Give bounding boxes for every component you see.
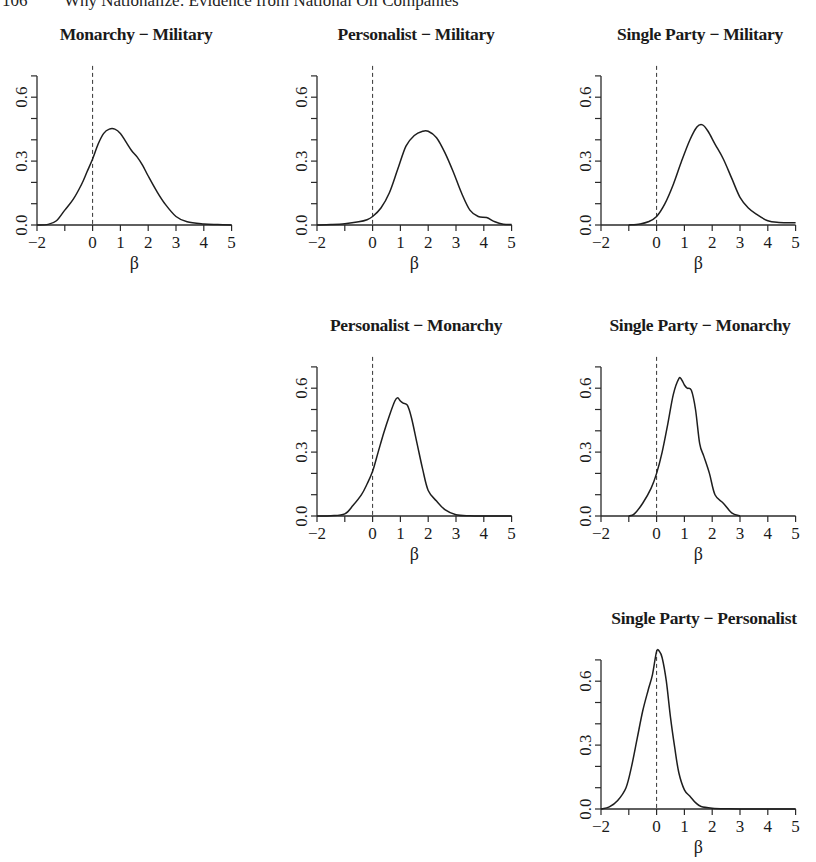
svg-text:4: 4 (200, 233, 209, 252)
svg-text:1: 1 (116, 233, 125, 252)
svg-text:2: 2 (424, 524, 433, 543)
svg-text:0.3: 0.3 (576, 734, 595, 755)
svg-text:0.3: 0.3 (576, 150, 595, 171)
svg-text:4: 4 (480, 233, 489, 252)
svg-text:0.6: 0.6 (292, 87, 311, 108)
svg-text:4: 4 (764, 817, 773, 836)
svg-text:0: 0 (652, 524, 661, 543)
svg-text:3: 3 (452, 524, 461, 543)
svg-text:0.3: 0.3 (292, 441, 311, 462)
svg-text:5: 5 (791, 817, 800, 836)
svg-text:0.6: 0.6 (12, 87, 31, 108)
svg-text:−2: −2 (308, 233, 326, 252)
svg-text:β: β (694, 544, 703, 564)
svg-text:−2: −2 (308, 524, 326, 543)
svg-text:3: 3 (736, 524, 745, 543)
chart-panel-single-party-military: Single Party − Military 0.00.30.6−201234… (564, 24, 816, 314)
density-plot: 0.00.30.6−2012345β (280, 315, 552, 585)
svg-text:1: 1 (680, 817, 689, 836)
running-head: 106Why Nationalize: Evidence from Nation… (2, 0, 459, 11)
svg-text:3: 3 (736, 817, 745, 836)
chart-panel-personalist-monarchy: Personalist − Monarchy 0.00.30.6−2012345… (280, 315, 552, 605)
svg-text:2: 2 (144, 233, 153, 252)
svg-text:1: 1 (680, 524, 689, 543)
svg-text:β: β (410, 253, 419, 273)
svg-text:β: β (694, 253, 703, 273)
svg-text:β: β (130, 253, 139, 273)
svg-text:5: 5 (507, 524, 515, 543)
svg-text:0.6: 0.6 (576, 87, 595, 108)
svg-text:0.6: 0.6 (576, 671, 595, 692)
chart-panel-single-party-personalist: Single Party − Personalist 0.00.30.6−201… (564, 608, 816, 862)
density-plot: 0.00.30.6−2012345β (564, 608, 816, 862)
svg-text:1: 1 (396, 524, 405, 543)
svg-text:2: 2 (708, 233, 717, 252)
svg-text:β: β (410, 544, 419, 564)
svg-text:−2: −2 (592, 524, 610, 543)
svg-text:−2: −2 (28, 233, 46, 252)
svg-text:3: 3 (736, 233, 745, 252)
running-head-title: Why Nationalize: Evidence from National … (64, 0, 459, 10)
svg-text:2: 2 (708, 524, 717, 543)
svg-text:0: 0 (368, 233, 377, 252)
chart-panel-personalist-military: Personalist − Military 0.00.30.6−2012345… (280, 24, 552, 314)
page-number: 106 (2, 0, 64, 11)
svg-text:0: 0 (368, 524, 377, 543)
svg-text:1: 1 (680, 233, 689, 252)
svg-text:0.3: 0.3 (12, 150, 31, 171)
svg-text:2: 2 (424, 233, 433, 252)
svg-text:β: β (694, 837, 703, 857)
svg-text:0.6: 0.6 (292, 378, 311, 399)
density-plot: 0.00.30.6−2012345β (564, 24, 816, 294)
svg-text:2: 2 (708, 817, 717, 836)
svg-text:0.6: 0.6 (576, 378, 595, 399)
chart-panel-monarchy-military: Monarchy − Military 0.00.30.6−2012345β (0, 24, 272, 314)
svg-text:0: 0 (88, 233, 97, 252)
svg-text:3: 3 (452, 233, 461, 252)
svg-text:5: 5 (791, 233, 800, 252)
svg-text:4: 4 (480, 524, 489, 543)
density-plot: 0.00.30.6−2012345β (564, 315, 816, 585)
density-plot: 0.00.30.6−2012345β (0, 24, 272, 294)
svg-text:5: 5 (791, 524, 800, 543)
density-plot: 0.00.30.6−2012345β (280, 24, 552, 294)
svg-text:5: 5 (507, 233, 515, 252)
svg-text:−2: −2 (592, 233, 610, 252)
svg-text:1: 1 (396, 233, 405, 252)
svg-text:−2: −2 (592, 817, 610, 836)
svg-text:5: 5 (227, 233, 236, 252)
svg-text:3: 3 (172, 233, 181, 252)
svg-text:0.3: 0.3 (292, 150, 311, 171)
chart-panel-single-party-monarchy: Single Party − Monarchy 0.00.30.6−201234… (564, 315, 816, 605)
svg-text:0: 0 (652, 817, 661, 836)
svg-text:0: 0 (652, 233, 661, 252)
svg-text:0.3: 0.3 (576, 441, 595, 462)
svg-text:4: 4 (764, 233, 773, 252)
svg-text:4: 4 (764, 524, 773, 543)
